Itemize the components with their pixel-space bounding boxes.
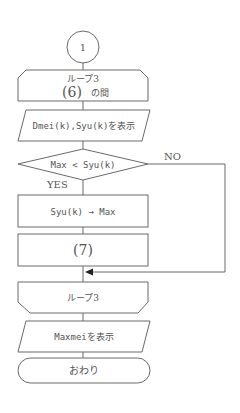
loop-end-node: ループ3 (18, 282, 148, 313)
loop-start-node: ループ3 (6) の間 (18, 70, 148, 101)
no-label: NO (164, 151, 181, 162)
process-node-2: (7) (18, 234, 148, 266)
flowchart: 1 ループ3 (6) の間 Dmei(k),Syu(k)を表示 Max < Sy… (0, 0, 240, 413)
process-1-label: Syu(k) → Max (50, 207, 116, 217)
display-2-label: Maxmeiを表示 (54, 331, 114, 342)
yes-label: YES (46, 179, 68, 190)
loop-condition-blank: (6) (62, 84, 82, 100)
terminal-label: おわり (69, 365, 99, 376)
process-2-label: (7) (73, 242, 93, 258)
process-node-1: Syu(k) → Max (18, 195, 148, 227)
merge-arrow-icon (85, 269, 93, 276)
loop-condition-suffix: の間 (91, 88, 109, 98)
decision-node: Max < Syu(k) YES NO (18, 149, 181, 190)
decision-label: Max < Syu(k) (50, 160, 115, 170)
display-node-2: Maxmeiを表示 (18, 321, 150, 352)
loop-start-title: ループ3 (67, 74, 99, 84)
connector-node: 1 (67, 31, 99, 63)
loop-end-title: ループ3 (67, 293, 99, 303)
display-1-label: Dmei(k),Syu(k)を表示 (33, 120, 136, 131)
terminal-node: おわり (18, 358, 150, 383)
display-node-1: Dmei(k),Syu(k)を表示 (18, 110, 150, 141)
connector-label: 1 (80, 42, 86, 53)
